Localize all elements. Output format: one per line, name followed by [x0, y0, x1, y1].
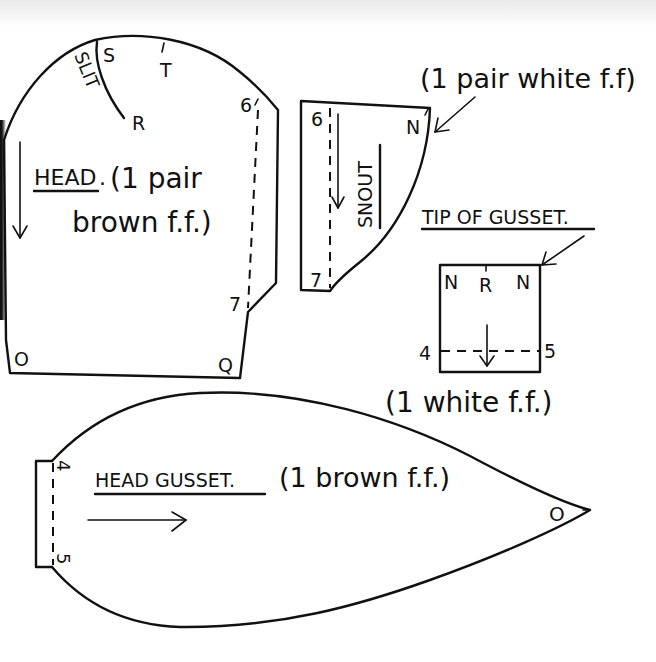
head-gusset-label-5: 5: [53, 553, 74, 564]
head-gusset-outline: [52, 392, 590, 627]
snout-title: SNOUT: [354, 161, 376, 228]
head-mark-6: [255, 99, 258, 105]
head-note-line2: brown f.f.): [72, 206, 212, 239]
snout-grain-arrow-icon: [332, 114, 344, 208]
tip-label-n-left: N: [444, 271, 458, 293]
snout-piece: 6 7 N SNOUT (1 pair white f.f): [301, 63, 636, 291]
tip-label-4: 4: [419, 342, 431, 364]
head-gusset-title: HEAD GUSSET.: [95, 469, 235, 491]
head-gusset-label-4: 4: [53, 460, 74, 471]
tip-of-gusset-piece: TIP OF GUSSET. N R N 4 5 (1 white f.f.): [385, 206, 594, 419]
head-seam-6-7: [248, 110, 258, 308]
head-label-o: O: [14, 348, 29, 370]
head-note-line1: (1 pair: [110, 162, 202, 195]
tip-label-5: 5: [544, 340, 556, 362]
head-gusset-label-o: O: [549, 502, 565, 526]
head-label-r: R: [132, 112, 145, 134]
tip-label-n-right: N: [516, 271, 530, 293]
head-label-slit: SLIT: [70, 49, 104, 93]
snout-label-7: 7: [310, 269, 322, 291]
head-gusset-tab: [36, 461, 52, 567]
head-label-t: T: [159, 59, 172, 81]
snout-note: (1 pair white f.f): [420, 63, 636, 94]
snout-mark-n: [425, 109, 428, 115]
tip-title: TIP OF GUSSET.: [421, 206, 569, 228]
head-label-s: S: [103, 44, 115, 66]
tip-note: (1 white f.f.): [385, 386, 553, 419]
tip-grain-arrow-icon: [480, 325, 494, 366]
head-label-q: Q: [218, 354, 233, 376]
head-piece: S T R 6 7 O Q SLIT HEAD . (1 pair brown …: [4, 36, 278, 378]
head-gusset-note: (1 brown f.f.): [279, 462, 450, 493]
pattern-sheet: S T R 6 7 O Q SLIT HEAD . (1 pair brown …: [0, 0, 656, 662]
snout-label-n: N: [406, 116, 420, 138]
head-mark-t: [162, 43, 164, 52]
head-gusset-grain-arrow-icon: [88, 512, 186, 531]
snout-pointer-arrow-icon: [435, 97, 475, 132]
head-title: HEAD: [34, 165, 96, 190]
head-grain-arrow-icon: [13, 142, 27, 238]
tip-label-r: R: [479, 274, 492, 296]
tip-pointer-arrow-icon: [542, 236, 584, 265]
head-title-punct: .: [99, 165, 106, 190]
head-label-7: 7: [229, 293, 241, 315]
head-label-6: 6: [240, 94, 252, 116]
snout-label-6: 6: [311, 108, 323, 130]
head-gusset-piece: 4 5 O HEAD GUSSET. (1 brown f.f.): [36, 392, 590, 627]
